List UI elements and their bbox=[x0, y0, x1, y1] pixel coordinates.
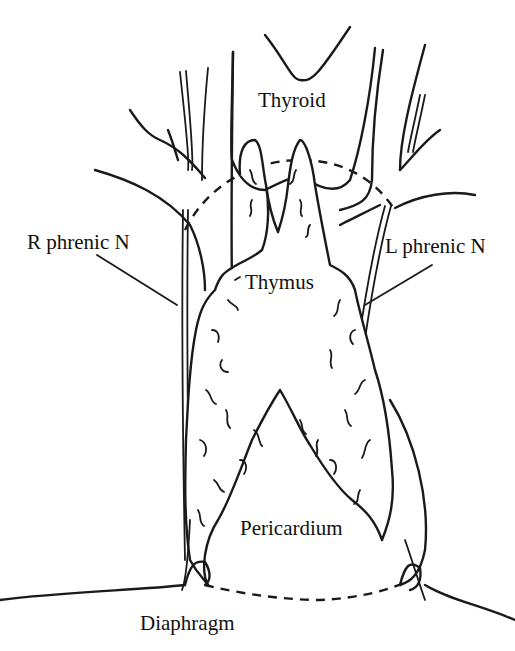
thymus-anatomy-diagram: Thyroid R phrenic N L phrenic N Thymus P… bbox=[0, 0, 515, 651]
label-pericardium: Pericardium bbox=[240, 518, 343, 539]
label-thyroid: Thyroid bbox=[258, 90, 326, 111]
label-thymus: Thymus bbox=[245, 272, 314, 293]
label-r-phrenic-nerve: R phrenic N bbox=[27, 232, 130, 253]
label-diaphragm: Diaphragm bbox=[140, 613, 234, 634]
label-l-phrenic-nerve: L phrenic N bbox=[385, 236, 486, 257]
